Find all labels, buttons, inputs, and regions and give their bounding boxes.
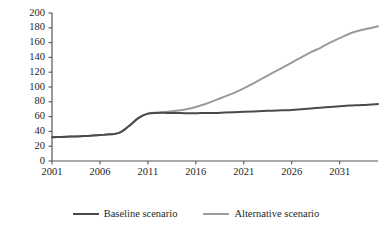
y-axis-tick-label: 160 xyxy=(0,37,45,48)
x-axis-tick-label: 2021 xyxy=(222,167,266,178)
legend-label: Alternative scenario xyxy=(234,209,319,220)
x-axis-tick-label: 2011 xyxy=(126,167,170,178)
y-axis-tick-label: 60 xyxy=(0,111,45,122)
y-axis-tick-label: 100 xyxy=(0,82,45,93)
series-line-alternative-scenario xyxy=(52,26,378,137)
y-axis-tick-label: 120 xyxy=(0,67,45,78)
x-axis-tick-label: 2006 xyxy=(78,167,122,178)
legend-item[interactable]: Alternative scenario xyxy=(203,209,319,220)
y-axis-tick-label: 200 xyxy=(0,8,45,19)
y-axis-tick-label: 180 xyxy=(0,22,45,33)
legend-label: Baseline scenario xyxy=(104,209,178,220)
series-line-baseline-scenario xyxy=(52,104,378,137)
x-axis-tick-label: 2016 xyxy=(174,167,218,178)
y-axis-tick-label: 40 xyxy=(0,126,45,137)
y-axis-tick-label: 140 xyxy=(0,52,45,63)
y-axis-tick-label: 0 xyxy=(0,156,45,167)
x-axis-tick-label: 2031 xyxy=(318,167,362,178)
y-axis-tick-label: 80 xyxy=(0,96,45,107)
legend-line-swatch xyxy=(73,213,99,215)
y-axis-tick-label: 20 xyxy=(0,141,45,152)
legend-line-swatch xyxy=(203,213,229,215)
line-chart-plot xyxy=(0,0,392,225)
chart-legend: Baseline scenarioAlternative scenario xyxy=(0,209,392,220)
x-axis-tick-label: 2026 xyxy=(270,167,314,178)
x-axis-tick-label: 2001 xyxy=(30,167,74,178)
legend-item[interactable]: Baseline scenario xyxy=(73,209,178,220)
chart-container: 020406080100120140160180200 200120062011… xyxy=(0,0,392,225)
